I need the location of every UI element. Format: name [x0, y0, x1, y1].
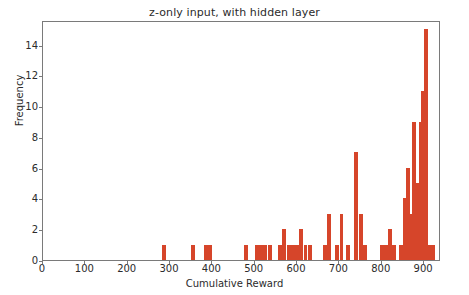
histogram-bar	[191, 245, 195, 260]
y-tick-label: 2	[18, 225, 38, 235]
x-tick-label: 100	[69, 264, 99, 274]
x-tick-mark	[254, 261, 255, 264]
x-tick-label: 0	[27, 264, 57, 274]
histogram-bar	[268, 245, 272, 260]
histogram-bar	[431, 245, 435, 260]
x-tick-mark	[338, 261, 339, 264]
histogram-figure: z-only input, with hidden layer Frequenc…	[0, 0, 469, 295]
histogram-bar	[308, 245, 312, 260]
x-tick-mark	[296, 261, 297, 264]
x-tick-label: 800	[366, 264, 396, 274]
x-tick-mark	[381, 261, 382, 264]
x-tick-label: 900	[408, 264, 438, 274]
y-tick-label: 12	[18, 71, 38, 81]
histogram-bar	[340, 214, 344, 260]
x-tick-label: 400	[196, 264, 226, 274]
histogram-bar	[346, 245, 350, 260]
x-tick-mark	[127, 261, 128, 264]
histogram-bar	[424, 29, 428, 260]
x-tick-label: 300	[154, 264, 184, 274]
y-tick-label: 14	[18, 41, 38, 51]
x-tick-label: 700	[323, 264, 353, 274]
x-tick-mark	[169, 261, 170, 264]
x-tick-label: 200	[112, 264, 142, 274]
histogram-bar	[244, 245, 248, 260]
x-axis-label: Cumulative Reward	[0, 278, 469, 289]
x-tick-mark	[423, 261, 424, 264]
histogram-bar	[363, 245, 367, 260]
histogram-bar	[162, 245, 166, 260]
plot-area	[42, 21, 440, 261]
x-tick-label: 600	[281, 264, 311, 274]
histogram-bar	[392, 245, 396, 260]
y-tick-label: 6	[18, 164, 38, 174]
x-tick-mark	[211, 261, 212, 264]
x-tick-mark	[42, 261, 43, 264]
x-tick-mark	[84, 261, 85, 264]
y-tick-label: 4	[18, 194, 38, 204]
histogram-bar	[327, 214, 331, 260]
histogram-bars	[43, 22, 439, 260]
histogram-bar	[208, 245, 212, 260]
chart-title: z-only input, with hidden layer	[0, 6, 469, 19]
x-tick-label: 500	[239, 264, 269, 274]
y-tick-label: 8	[18, 133, 38, 143]
y-tick-label: 10	[18, 102, 38, 112]
